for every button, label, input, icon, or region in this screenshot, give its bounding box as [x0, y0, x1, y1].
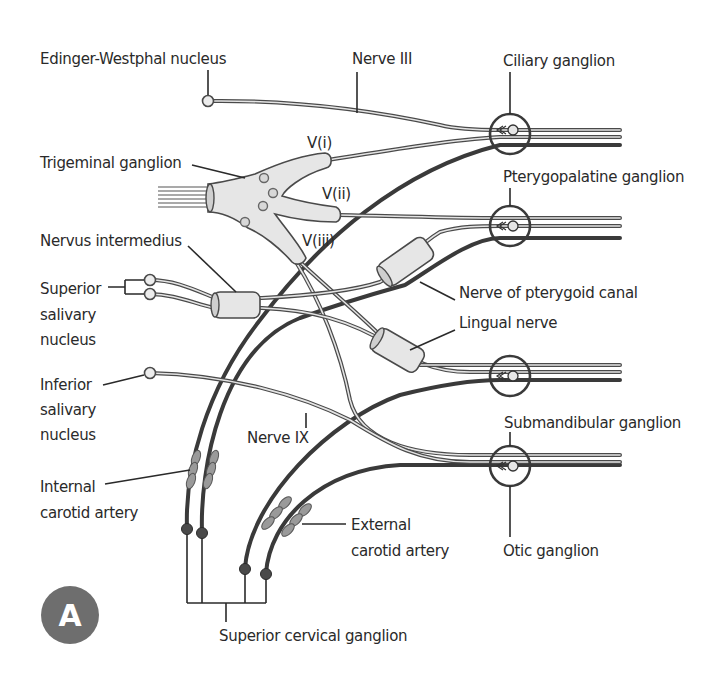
- trigeminal-roots: [158, 187, 212, 207]
- label-nervus-intermedius: Nervus intermedius: [40, 232, 182, 250]
- label-edinger-westphal-nucleus: Edinger-Westphal nucleus: [40, 50, 227, 68]
- inferior-salivary-nucleus-marker: [145, 368, 156, 379]
- label-v-i: V(i): [307, 134, 332, 152]
- label-inferior-salivary-nucleus-line2: salivary: [40, 401, 96, 419]
- label-superior-salivary-nucleus-line1: Superior: [40, 280, 102, 298]
- labels: Edinger-Westphal nucleus Nerve III Cilia…: [39, 50, 684, 645]
- label-ciliary-ganglion: Ciliary ganglion: [503, 52, 615, 70]
- label-pterygopalatine-ganglion: Pterygopalatine ganglion: [503, 168, 684, 186]
- label-external-carotid-artery-line2: carotid artery: [351, 542, 450, 560]
- lingual-nerve-sheath: [367, 325, 427, 375]
- submandibular-ganglion: [490, 356, 530, 396]
- label-submandibular-ganglion: Submandibular ganglion: [504, 414, 681, 432]
- label-external-carotid-artery-line1: External: [351, 516, 411, 534]
- label-inferior-salivary-nucleus-line3: nucleus: [40, 426, 96, 444]
- label-superior-salivary-nucleus-line2: salivary: [40, 306, 96, 324]
- label-internal-carotid-artery-line1: Internal: [40, 478, 95, 496]
- pterygoid-canal-sheath: [374, 235, 436, 290]
- symp-fiber-pterygopalatine: [202, 238, 620, 532]
- label-lingual-nerve: Lingual nerve: [459, 314, 557, 332]
- nervus-intermedius-sheath: [211, 292, 260, 318]
- label-v-iii: V(iii): [302, 232, 335, 250]
- label-inferior-salivary-nucleus-line1: Inferior: [40, 376, 93, 394]
- superior-salivary-nucleus-marker-bottom: [145, 289, 156, 300]
- ciliary-ganglion: [490, 114, 530, 154]
- label-superior-cervical-ganglion: Superior cervical ganglion: [219, 627, 407, 645]
- superior-salivary-nucleus-marker-top: [145, 275, 156, 286]
- nerve-sheaths: [211, 235, 436, 375]
- label-v-ii: V(ii): [322, 185, 351, 203]
- symp-fiber-submandibular: [245, 380, 620, 568]
- label-nerve-iii: Nerve III: [352, 50, 412, 68]
- edinger-westphal-nucleus-marker: [203, 96, 214, 107]
- internal-carotid-plexus-left: [185, 449, 203, 490]
- superior-cervical-ganglion: [182, 524, 272, 623]
- autonomic-cranial-ganglia-diagram: Edinger-Westphal nucleus Nerve III Cilia…: [0, 0, 722, 674]
- panel-badge: A: [41, 586, 99, 644]
- label-superior-salivary-nucleus-line3: nucleus: [40, 331, 96, 349]
- label-otic-ganglion: Otic ganglion: [503, 542, 599, 560]
- label-internal-carotid-artery-line2: carotid artery: [40, 504, 139, 522]
- panel-badge-letter: A: [58, 598, 82, 633]
- label-nerve-of-pterygoid-canal: Nerve of pterygoid canal: [459, 284, 638, 302]
- label-trigeminal-ganglion: Trigeminal ganglion: [39, 154, 182, 172]
- label-nerve-ix: Nerve IX: [247, 429, 309, 447]
